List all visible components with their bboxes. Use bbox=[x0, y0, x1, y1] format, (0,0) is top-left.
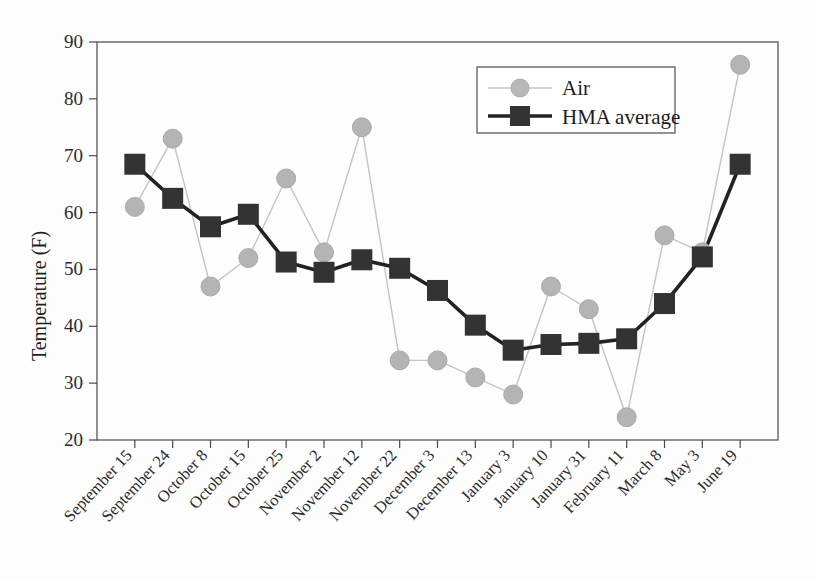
data-point-hma-average bbox=[389, 258, 410, 279]
x-axis-tick-labels: September 15September 24October 8October… bbox=[60, 446, 741, 526]
data-point-air bbox=[466, 368, 485, 387]
data-point-hma-average bbox=[124, 154, 145, 175]
legend-marker-air bbox=[511, 79, 529, 97]
y-tick-label: 50 bbox=[64, 258, 83, 279]
data-point-air bbox=[542, 277, 561, 296]
legend-label-air: Air bbox=[562, 76, 590, 100]
data-point-hma-average bbox=[276, 252, 297, 273]
data-point-hma-average bbox=[654, 293, 675, 314]
data-point-hma-average bbox=[162, 188, 183, 209]
data-point-air bbox=[163, 129, 182, 148]
data-point-hma-average bbox=[503, 340, 524, 361]
data-point-air bbox=[579, 300, 598, 319]
temperature-line-chart: 2030405060708090 September 15September 2… bbox=[0, 0, 815, 580]
data-point-air bbox=[504, 385, 523, 404]
data-point-hma-average bbox=[578, 333, 599, 354]
chart-page: 2030405060708090 September 15September 2… bbox=[0, 0, 815, 580]
data-point-hma-average bbox=[616, 328, 637, 349]
data-point-air bbox=[390, 351, 409, 370]
data-point-air bbox=[617, 408, 636, 427]
data-point-air bbox=[201, 277, 220, 296]
y-tick-label: 80 bbox=[64, 88, 83, 109]
data-point-air bbox=[315, 243, 334, 262]
y-tick-label: 40 bbox=[64, 315, 83, 336]
data-point-air bbox=[655, 226, 674, 245]
legend-label-hma-average: HMA average bbox=[562, 105, 680, 129]
x-tick-label: June 19 bbox=[692, 446, 741, 496]
data-point-hma-average bbox=[314, 262, 335, 283]
data-point-hma-average bbox=[692, 246, 713, 267]
data-point-air bbox=[239, 249, 258, 268]
data-point-hma-average bbox=[730, 154, 751, 175]
chart-legend: Air HMA average bbox=[477, 67, 680, 133]
data-point-hma-average bbox=[200, 216, 221, 237]
y-tick-label: 90 bbox=[64, 31, 83, 52]
data-point-air bbox=[428, 351, 447, 370]
data-point-air bbox=[731, 55, 750, 74]
y-tick-label: 60 bbox=[64, 202, 83, 223]
series-line-hma-average bbox=[135, 164, 740, 350]
data-point-hma-average bbox=[465, 315, 486, 336]
data-point-air bbox=[277, 169, 296, 188]
y-tick-label: 70 bbox=[64, 145, 83, 166]
data-point-hma-average bbox=[427, 280, 448, 301]
data-point-hma-average bbox=[238, 204, 259, 225]
y-axis-tick-labels: 2030405060708090 bbox=[64, 31, 83, 450]
y-tick-label: 30 bbox=[64, 372, 83, 393]
y-tick-label: 20 bbox=[64, 429, 83, 450]
data-point-air bbox=[125, 197, 144, 216]
data-point-hma-average bbox=[351, 249, 372, 270]
data-point-air bbox=[352, 118, 371, 137]
y-axis-title: Temperature (F) bbox=[28, 231, 51, 361]
y-axis-ticks bbox=[89, 42, 97, 440]
data-point-hma-average bbox=[541, 334, 562, 355]
legend-marker-hma-average bbox=[510, 106, 530, 126]
